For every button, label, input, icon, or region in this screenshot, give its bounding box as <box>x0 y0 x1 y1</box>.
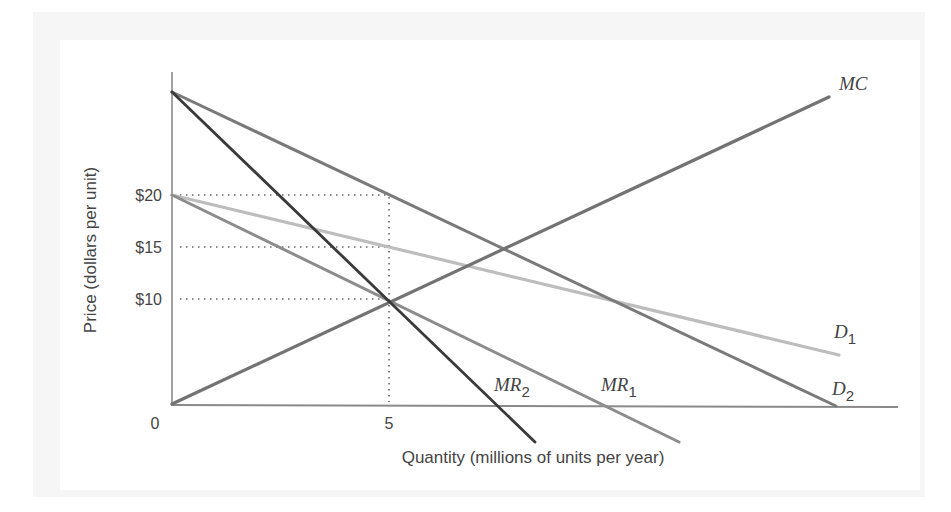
reference-lines <box>180 195 389 402</box>
d1-curve <box>172 195 839 355</box>
monopoly-chart: $20 $15 $10 0 5 Quantity (millions of un… <box>0 0 951 512</box>
mr1-label: MR1 <box>600 374 637 400</box>
mc-label: MC <box>838 73 868 94</box>
d1-label: D1 <box>833 321 856 347</box>
d2-label: D2 <box>831 378 854 404</box>
mr2-label-main: MR <box>493 374 522 395</box>
x-tick-5: 5 <box>385 415 394 432</box>
y-axis-title: Price (dollars per unit) <box>81 167 100 333</box>
mr1-label-sub: 1 <box>628 383 636 400</box>
mr2-label-sub: 2 <box>521 383 529 400</box>
d2-label-main: D <box>831 378 846 399</box>
y-tick-20: $20 <box>135 187 162 204</box>
d1-label-sub: 1 <box>848 330 856 347</box>
d1-label-main: D <box>833 321 848 342</box>
mc-curve <box>172 97 829 404</box>
y-tick-15: $15 <box>135 239 162 256</box>
mr2-label: MR2 <box>493 374 530 400</box>
x-axis <box>171 405 898 407</box>
mr2-curve <box>172 92 535 442</box>
x-axis-title: Quantity (millions of units per year) <box>402 448 665 467</box>
mr1-label-main: MR <box>600 374 629 395</box>
y-tick-10: $10 <box>135 291 162 308</box>
d2-label-sub: 2 <box>846 387 854 404</box>
x-tick-0: 0 <box>151 415 160 432</box>
